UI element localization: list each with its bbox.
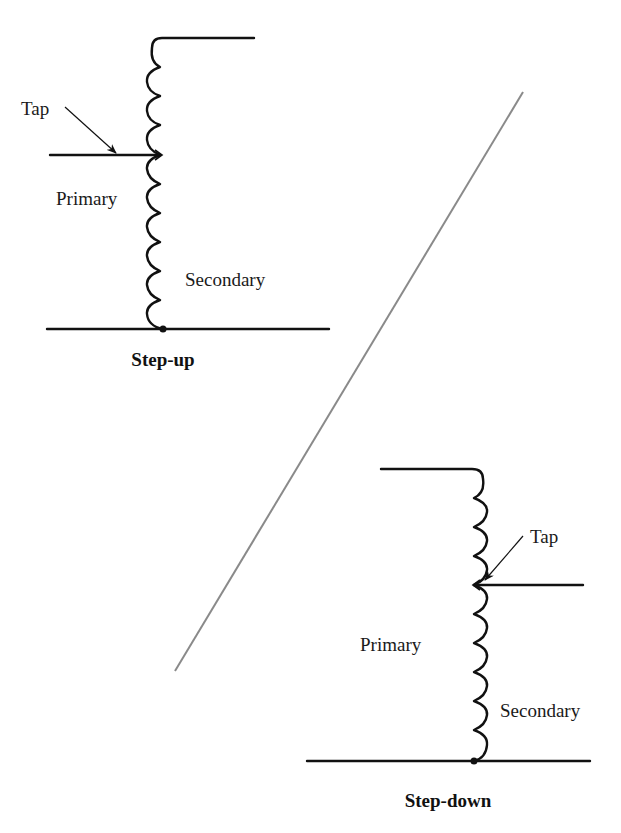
step-up-secondary-label: Secondary: [185, 269, 266, 290]
step-up-lower-coil-icon: [147, 155, 163, 329]
step-up-upper-coil-icon: [147, 48, 160, 155]
step-down-tap-arrow-icon: [485, 536, 523, 580]
step-down-primary-label: Primary: [360, 634, 422, 655]
step-up-junction-dot-icon: [160, 326, 167, 333]
step-up-primary-label: Primary: [56, 188, 118, 209]
step-down-secondary-label: Secondary: [500, 700, 581, 721]
step-up-top-wire: [152, 38, 254, 48]
step-up-tap-arrow-icon: [65, 107, 116, 153]
step-down-upper-coil-icon: [474, 479, 487, 585]
autotransformer-diagram: Tap Primary Secondary Step-up Tap Primar…: [0, 0, 621, 833]
step-down-diagram: Tap Primary Secondary Step-down: [307, 469, 590, 811]
step-up-title: Step-up: [131, 349, 194, 370]
step-up-diagram: Tap Primary Secondary Step-up: [21, 38, 329, 370]
step-down-tap-label: Tap: [530, 526, 558, 547]
step-down-top-wire: [381, 469, 483, 479]
divider-line: [175, 92, 523, 671]
step-down-junction-dot-icon: [471, 758, 478, 765]
step-up-tap-label: Tap: [21, 98, 49, 119]
step-down-title: Step-down: [405, 790, 492, 811]
step-down-lower-coil-icon: [474, 585, 487, 761]
